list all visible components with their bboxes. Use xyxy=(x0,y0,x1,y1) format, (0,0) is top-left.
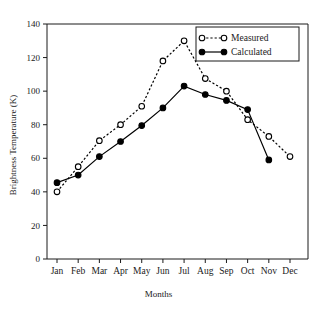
data-point-calculated xyxy=(54,180,60,186)
x-axis-tick-label: Apr xyxy=(113,266,129,276)
x-axis-title: Months xyxy=(0,289,317,299)
legend-label-calculated: Calculated xyxy=(231,47,272,57)
x-axis-tick-label: Jan xyxy=(51,266,64,276)
data-point-measured xyxy=(97,138,103,144)
data-point-measured xyxy=(181,38,187,44)
y-axis-tick-label: 140 xyxy=(27,19,41,29)
data-point-measured xyxy=(266,134,272,140)
y-axis-tick-label: 80 xyxy=(31,120,41,130)
y-axis-tick-label: 120 xyxy=(27,53,41,63)
chart-figure: 020406080100120140JanFebMarAprMayJunJulA… xyxy=(0,0,317,309)
x-axis-tick-label: Mar xyxy=(91,266,108,276)
data-point-measured xyxy=(245,117,251,123)
series-line-calculated xyxy=(57,86,269,183)
data-point-calculated xyxy=(118,139,124,145)
y-axis-title: Brightness Temperature (K) xyxy=(8,85,18,205)
data-point-calculated xyxy=(181,83,187,89)
series-line-measured xyxy=(57,41,290,192)
data-point-measured xyxy=(54,189,60,195)
y-axis-tick-label: 0 xyxy=(36,254,41,264)
data-point-calculated xyxy=(202,92,208,98)
data-point-measured xyxy=(139,103,145,109)
x-axis-tick-label: Aug xyxy=(197,266,214,276)
legend-marker-calculated xyxy=(221,49,227,55)
legend-marker-calculated xyxy=(199,49,205,55)
data-point-measured xyxy=(287,154,293,160)
legend-marker-measured xyxy=(199,35,205,41)
x-axis-tick-label: Nov xyxy=(261,266,278,276)
y-axis-tick-label: 60 xyxy=(31,153,41,163)
x-axis-tick-label: May xyxy=(133,266,151,276)
data-point-calculated xyxy=(139,123,145,129)
data-point-measured xyxy=(224,88,230,94)
data-point-calculated xyxy=(266,157,272,163)
x-axis-tick-label: Jun xyxy=(156,266,169,276)
data-point-measured xyxy=(118,122,124,128)
x-axis-tick-label: Jul xyxy=(179,266,190,276)
y-axis-tick-label: 20 xyxy=(31,221,41,231)
data-point-calculated xyxy=(245,107,251,113)
data-point-measured xyxy=(75,164,81,170)
legend-marker-measured xyxy=(221,35,227,41)
data-point-calculated xyxy=(97,154,103,160)
data-point-calculated xyxy=(160,105,166,111)
legend-label-measured: Measured xyxy=(231,33,269,43)
x-axis-tick-label: Dec xyxy=(282,266,297,276)
data-point-calculated xyxy=(224,98,230,104)
y-axis-tick-label: 40 xyxy=(31,187,41,197)
line-chart: 020406080100120140JanFebMarAprMayJunJulA… xyxy=(0,0,317,309)
x-axis-tick-label: Oct xyxy=(241,266,255,276)
x-axis-tick-label: Sep xyxy=(219,266,234,276)
y-axis-tick-label: 100 xyxy=(27,86,41,96)
data-point-measured xyxy=(202,76,208,82)
data-point-measured xyxy=(160,58,166,64)
x-axis-tick-label: Feb xyxy=(71,266,86,276)
data-point-calculated xyxy=(75,172,81,178)
